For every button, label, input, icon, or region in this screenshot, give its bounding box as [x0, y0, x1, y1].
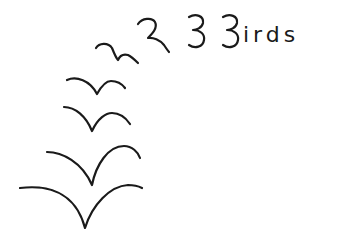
bird-icon-small: [67, 79, 125, 94]
bird-icon-squiggle: [96, 44, 138, 63]
letter-b-three-shape: [223, 15, 238, 47]
bird-icon-large: [20, 185, 142, 228]
bird-icon-two-shape: [138, 19, 169, 52]
title-text: irds: [243, 22, 299, 47]
letter-three-shape-1: [189, 15, 204, 47]
bird-icon-medium-large: [47, 146, 140, 185]
bird-icon-medium: [64, 107, 130, 131]
birds-drawing: irds: [0, 0, 350, 248]
